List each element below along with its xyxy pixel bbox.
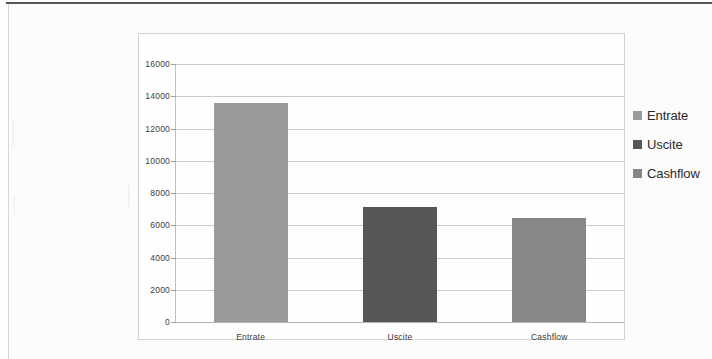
y-axis-tick-mark xyxy=(171,290,176,291)
y-axis-tick-mark xyxy=(171,161,176,162)
bar-entrate[interactable] xyxy=(214,103,288,322)
page-top-rule xyxy=(6,2,712,4)
y-axis-tick-label: 2000 xyxy=(126,285,170,295)
y-axis-tick-label: 12000 xyxy=(126,124,170,134)
y-axis-tick-labels: 1600014000120001000080006000400020000 xyxy=(124,64,170,322)
y-axis-tick-label: 10000 xyxy=(126,156,170,166)
x-axis-label: Cashflow xyxy=(475,332,624,342)
y-axis-tick-mark xyxy=(171,64,176,65)
y-axis-tick-label: 0 xyxy=(126,317,170,327)
bar-cashflow[interactable] xyxy=(512,218,586,322)
legend-swatch-icon xyxy=(633,169,642,178)
y-axis-tick-mark xyxy=(171,322,176,323)
y-axis-tick-mark xyxy=(171,96,176,97)
y-axis-tick-mark xyxy=(171,129,176,130)
scan-speckle xyxy=(12,120,14,146)
legend-item-cashflow[interactable]: Cashflow xyxy=(633,166,709,180)
y-axis-tick-label: 16000 xyxy=(126,59,170,69)
legend-label: Entrate xyxy=(647,108,688,123)
page-left-margin-line xyxy=(8,4,9,359)
legend-item-entrate[interactable]: Entrate xyxy=(633,108,709,122)
gridline xyxy=(176,96,624,97)
y-axis-tick-label: 4000 xyxy=(126,253,170,263)
y-axis-tick-label: 14000 xyxy=(126,91,170,101)
bar-uscite[interactable] xyxy=(363,207,437,322)
y-axis-tick-mark xyxy=(171,225,176,226)
x-axis-label: Uscite xyxy=(325,332,474,342)
x-axis-label: Entrate xyxy=(176,332,325,342)
legend-item-uscite[interactable]: Uscite xyxy=(633,137,709,151)
y-axis-tick-mark xyxy=(171,258,176,259)
y-axis-tick-mark xyxy=(171,193,176,194)
gridline xyxy=(176,64,624,65)
chart-legend: Entrate Uscite Cashflow xyxy=(633,108,709,195)
y-axis-tick-label: 6000 xyxy=(126,220,170,230)
y-axis-tick-label: 8000 xyxy=(126,188,170,198)
legend-swatch-icon xyxy=(633,111,642,120)
legend-label: Uscite xyxy=(647,137,683,152)
legend-label: Cashflow xyxy=(647,166,700,181)
scan-speckle xyxy=(13,196,15,214)
legend-swatch-icon xyxy=(633,140,642,149)
gridline xyxy=(176,322,624,323)
